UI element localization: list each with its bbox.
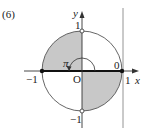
problem-number: (6) (2, 9, 15, 20)
open-point-top (80, 29, 84, 33)
angle-label: π (63, 58, 69, 69)
tick-y-pos: 1 (75, 20, 81, 31)
tick-y-neg: −1 (70, 114, 82, 125)
zero-label: 0 (114, 60, 120, 71)
unit-circle-diagram: (6) y x O −1 1 1 −1 π 0 (0, 0, 142, 134)
y-axis-arrow-icon (80, 11, 85, 18)
filled-point-neg1 (40, 69, 44, 73)
tick-x-pos: 1 (125, 75, 131, 86)
x-axis-label: x (135, 75, 140, 86)
shaded-quadrant-4 (82, 71, 122, 111)
shaded-quadrant-2 (42, 31, 82, 71)
origin-label: O (73, 74, 81, 85)
filled-point-pos1 (120, 69, 124, 73)
tick-x-neg: −1 (26, 74, 38, 85)
x-axis-arrow-icon (132, 69, 139, 74)
y-axis-label: y (73, 8, 78, 19)
